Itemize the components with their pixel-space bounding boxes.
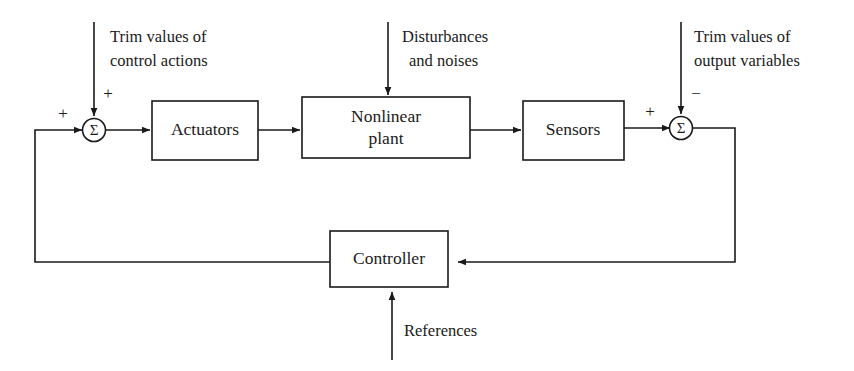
block-diagram-canvas: Actuators Nonlinear plant Sensors Contro… bbox=[0, 0, 854, 371]
annotation-disturbances-noises-line2: and noises bbox=[409, 51, 478, 70]
annotation-trim-control-actions-line1: Trim values of bbox=[110, 27, 207, 46]
annotation-disturbances-noises-line1: Disturbances bbox=[402, 27, 488, 46]
summing-junction-left-sign-vertical: + bbox=[103, 84, 113, 103]
block-controller-label: Controller bbox=[353, 248, 425, 268]
block-actuators[interactable]: Actuators bbox=[152, 101, 258, 160]
annotation-trim-output-variables-line1: Trim values of bbox=[694, 27, 791, 46]
summing-junction-right-sign-vertical: − bbox=[691, 84, 701, 103]
annotation-trim-output-variables: Trim values of output variables bbox=[694, 27, 800, 70]
annotation-trim-control-actions-line2: control actions bbox=[110, 51, 208, 70]
annotation-trim-output-variables-line2: output variables bbox=[694, 51, 800, 70]
block-nonlinear-plant-label-line2: plant bbox=[369, 128, 404, 148]
summing-junction-right[interactable]: Σ + − bbox=[645, 84, 701, 140]
block-actuators-label: Actuators bbox=[171, 119, 239, 139]
block-diagram-svg: Actuators Nonlinear plant Sensors Contro… bbox=[0, 0, 854, 371]
summing-junction-right-sigma: Σ bbox=[677, 120, 686, 136]
annotation-trim-control-actions: Trim values of control actions bbox=[110, 27, 208, 70]
block-controller[interactable]: Controller bbox=[330, 231, 448, 287]
summing-junction-left-sign-horizontal: + bbox=[58, 104, 68, 123]
summing-junction-right-sign-horizontal: + bbox=[645, 102, 655, 121]
annotation-disturbances-noises: Disturbances and noises bbox=[402, 27, 488, 70]
annotation-references-line1: References bbox=[404, 321, 477, 340]
summing-junction-left-sigma: Σ bbox=[90, 122, 99, 138]
annotation-references: References bbox=[404, 321, 477, 340]
summing-junction-left[interactable]: Σ + + bbox=[58, 84, 113, 142]
block-sensors-label: Sensors bbox=[546, 119, 601, 139]
block-sensors[interactable]: Sensors bbox=[523, 101, 624, 160]
block-nonlinear-plant[interactable]: Nonlinear plant bbox=[302, 97, 470, 158]
block-nonlinear-plant-label-line1: Nonlinear bbox=[351, 106, 421, 126]
